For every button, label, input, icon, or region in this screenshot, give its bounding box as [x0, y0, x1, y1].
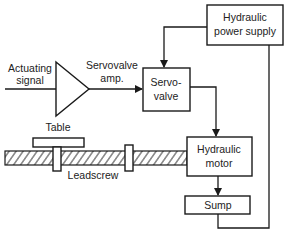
table-label: Table — [45, 121, 70, 133]
amplifier-triangle-icon — [56, 62, 89, 116]
leadscrew-label: Leadscrew — [68, 169, 119, 181]
leadscrew: Leadscrew — [5, 151, 187, 181]
hydraulic-power-supply-block: Hydraulic power supply — [207, 5, 283, 45]
power-supply-label-line1: Hydraulic — [223, 11, 267, 23]
motor-label-line1: Hydraulic — [197, 143, 241, 155]
actuating-signal: Actuating signal — [5, 62, 56, 89]
table-nut — [53, 147, 61, 171]
servovalve-label-line2: valve — [154, 90, 179, 102]
hydraulic-servo-diagram: Hydraulic power supply Actuating signal … — [0, 0, 285, 233]
servovalve-amp-block: Servovalve amp. — [56, 59, 138, 116]
hydraulic-motor-block: Hydraulic motor — [187, 137, 252, 176]
amp-label-line2: amp. — [100, 72, 123, 84]
servovalve-label-line1: Servo- — [151, 76, 182, 88]
amp-label-line1: Servovalve — [86, 59, 138, 71]
supply-to-servovalve-line — [164, 27, 207, 67]
actuating-signal-label-line2: signal — [16, 74, 43, 86]
leadscrew-bearing — [125, 145, 133, 171]
motor-label-line2: motor — [206, 157, 233, 169]
power-supply-label-line2: power supply — [214, 25, 277, 37]
servovalve-block: Servo- valve — [143, 68, 190, 111]
sump-block: Sump — [185, 196, 250, 214]
sump-label: Sump — [204, 199, 232, 211]
servovalve-to-motor-line — [190, 87, 216, 136]
actuating-signal-label-line1: Actuating — [8, 62, 52, 74]
